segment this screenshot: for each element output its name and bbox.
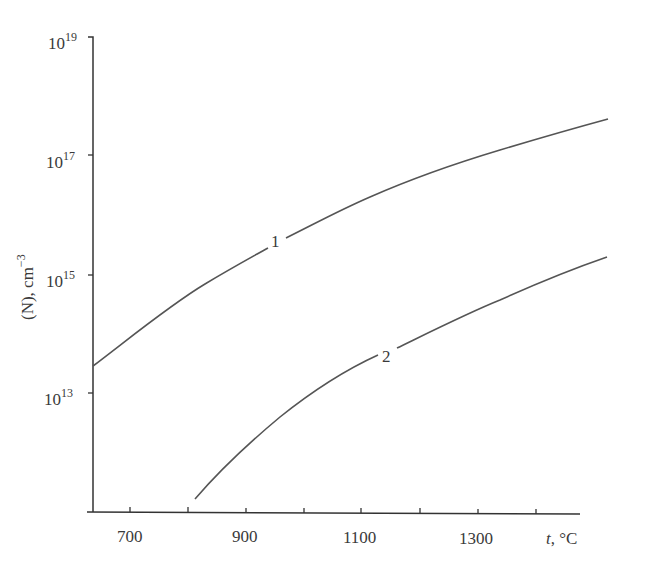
x-axis — [87, 512, 580, 514]
x-tick-label: 1100 — [343, 528, 376, 547]
x-tick-label: 700 — [117, 527, 143, 546]
y-tick-label: 1013 — [44, 386, 73, 409]
chart: 1019 1017 1015 1013 700 900 1100 1300 t,… — [0, 0, 660, 568]
x-tick-label: 900 — [232, 527, 258, 546]
y-tick-label: 1015 — [46, 268, 75, 291]
x-axis-label: t, °C — [546, 529, 577, 548]
x-tick-label: 1300 — [459, 529, 493, 548]
x-tick-labels: 700 900 1100 1300 — [117, 527, 493, 548]
curve-1 — [93, 119, 608, 366]
curve-2 — [195, 257, 607, 499]
y-axis-label: (N), cm−3 — [14, 254, 37, 320]
curve-1-label: 1 — [271, 232, 280, 251]
y-tick-labels: 1019 1017 1015 1013 — [44, 30, 77, 409]
curve-2-label: 2 — [382, 347, 391, 366]
y-tick-label: 1019 — [48, 30, 77, 53]
y-tick-label: 1017 — [46, 149, 75, 172]
